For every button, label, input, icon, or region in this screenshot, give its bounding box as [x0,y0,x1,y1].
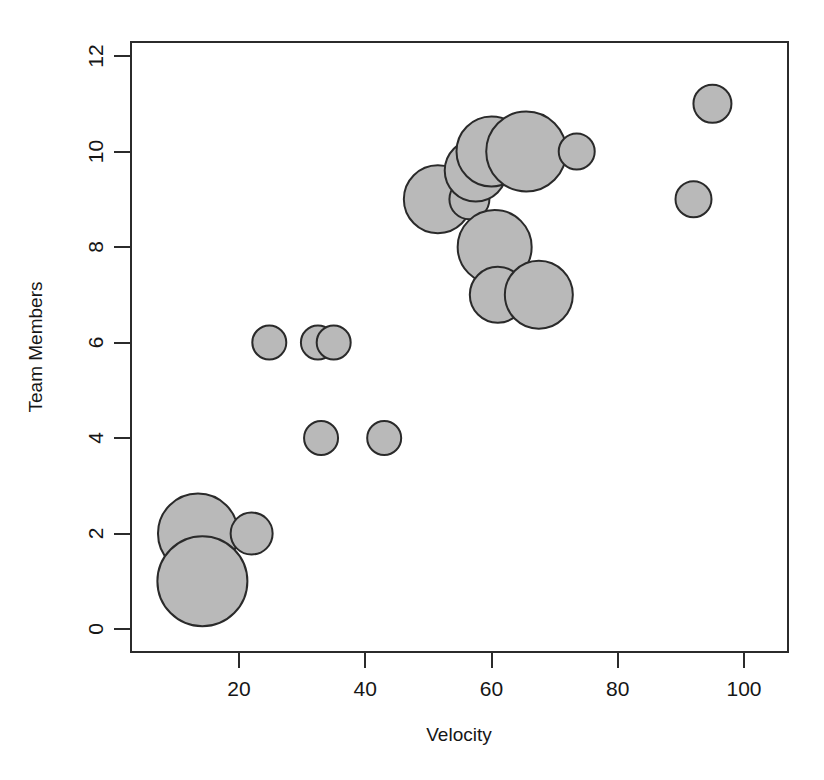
bubble-point [231,513,273,555]
bubble-point [559,134,595,170]
bubble-point [317,326,351,360]
bubble-point [157,536,247,626]
bubble-point [505,261,573,329]
x-tick-label: 100 [726,677,761,700]
x-axis-tick-labels: 20406080100 [227,677,761,700]
bubble-point [693,85,731,123]
x-tick-label: 60 [480,677,503,700]
y-tick-label: 2 [84,528,107,540]
y-tick-label: 10 [84,140,107,163]
y-axis-tick-labels: 024681012 [84,44,107,635]
x-tick-label: 80 [606,677,629,700]
bubble-point [676,181,712,217]
y-tick-label: 8 [84,241,107,253]
bubble-point [367,421,401,455]
x-axis-ticks [239,652,744,668]
y-tick-label: 6 [84,337,107,349]
y-tick-label: 0 [84,623,107,635]
x-tick-label: 20 [227,677,250,700]
y-axis-title: Team Members [25,282,46,413]
y-axis-ticks [114,56,131,629]
bubble-point [252,326,286,360]
x-axis-title: Velocity [426,724,492,745]
y-tick-label: 12 [84,44,107,67]
plot-canvas: 20406080100 024681012 Velocity Team Memb… [0,0,824,780]
x-tick-label: 40 [354,677,377,700]
y-tick-label: 4 [84,432,107,444]
bubble-point [486,112,566,192]
bubble-series [157,85,731,627]
bubble-point [304,421,338,455]
bubble-chart-figure: 20406080100 024681012 Velocity Team Memb… [0,0,824,780]
